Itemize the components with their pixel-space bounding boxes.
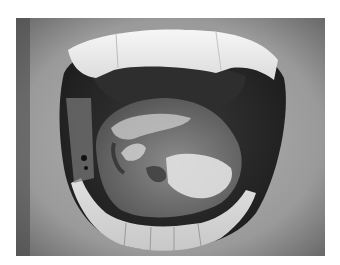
photo-render bbox=[16, 18, 325, 256]
clinical-photo-open-mouth bbox=[16, 18, 325, 256]
